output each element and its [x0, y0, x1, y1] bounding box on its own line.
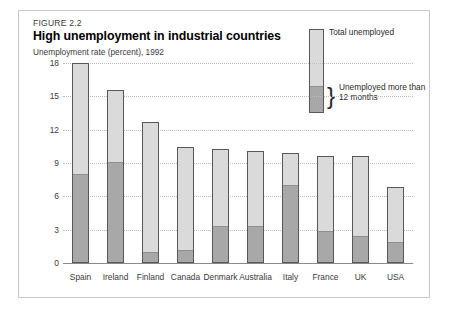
bar-longterm-segment — [248, 226, 263, 262]
x-axis-label-uk: UK — [355, 272, 367, 282]
bar-longterm-segment — [73, 174, 88, 262]
bar-longterm-segment — [108, 162, 123, 262]
y-axis-tick-label: 0 — [41, 258, 59, 268]
y-axis-tick-label: 15 — [41, 91, 59, 101]
figure-number: FIGURE 2.2 — [33, 18, 82, 28]
bar-longterm-segment — [388, 242, 403, 262]
bar-longterm-segment — [143, 252, 158, 262]
x-axis-label-italy: Italy — [283, 272, 298, 282]
x-axis-label-usa: USA — [387, 272, 404, 282]
x-axis-label-ireland: Ireland — [103, 272, 129, 282]
y-axis-tick-label: 3 — [41, 225, 59, 235]
axis-baseline — [63, 263, 413, 264]
bar-uk — [352, 156, 369, 263]
x-axis-label-australia: Australia — [239, 272, 272, 282]
bar-longterm-segment — [283, 185, 298, 262]
x-axis-label-spain: Spain — [70, 272, 91, 282]
bar-australia — [247, 151, 264, 263]
bar-usa — [387, 187, 404, 263]
x-axis-label-finland: Finland — [137, 272, 164, 282]
plot-area: 0369121518 SpainIrelandFinlandCanadaDenm… — [41, 63, 413, 273]
bar-denmark — [212, 149, 229, 263]
y-axis-tick-label: 18 — [41, 58, 59, 68]
bar-spain — [72, 63, 89, 263]
bar-ireland — [107, 90, 124, 263]
bar-longterm-segment — [178, 250, 193, 262]
y-axis-tick-label: 12 — [41, 125, 59, 135]
bar-finland — [142, 122, 159, 263]
x-axis-label-denmark: Denmark — [204, 272, 238, 282]
bar-longterm-segment — [213, 226, 228, 262]
figure-title: High unemployment in industrial countrie… — [33, 29, 281, 43]
bars-layer — [63, 63, 413, 263]
bar-italy — [282, 153, 299, 263]
figure-subtitle: Unemployment rate (percent), 1992 — [33, 47, 164, 57]
bar-canada — [177, 147, 194, 263]
figure-frame: FIGURE 2.2 High unemployment in industri… — [18, 10, 430, 298]
y-axis-tick-label: 6 — [41, 191, 59, 201]
bar-france — [317, 156, 334, 263]
bar-longterm-segment — [353, 236, 368, 262]
y-axis-tick-label: 9 — [41, 158, 59, 168]
bar-longterm-segment — [318, 231, 333, 262]
x-axis-label-france: France — [312, 272, 338, 282]
x-axis-label-canada: Canada — [171, 272, 200, 282]
legend-label-total: Total unemployed — [329, 27, 394, 37]
